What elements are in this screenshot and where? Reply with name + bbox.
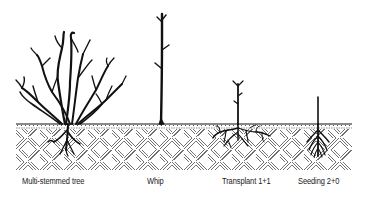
- planting-stock-diagram: Multi-stemmed tree Whip Transplant 1+1 S…: [0, 0, 369, 201]
- label-whip: Whip: [147, 176, 164, 186]
- label-multi-stemmed-tree: Multi-stemmed tree: [22, 176, 84, 186]
- label-seeding: Seeding 2+0: [298, 176, 339, 186]
- whip-illustration: [155, 14, 169, 124]
- diagram-canvas: [0, 0, 369, 201]
- label-transplant: Transplant 1+1: [222, 176, 271, 186]
